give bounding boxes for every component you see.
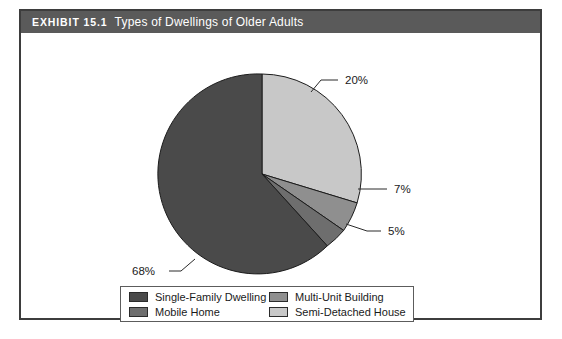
pie-label-single-family-pct: 68% bbox=[132, 265, 155, 277]
leader-line-single-family bbox=[169, 259, 195, 271]
legend-label-multi-unit-building: Multi-Unit Building bbox=[295, 291, 384, 303]
legend-item-mobile-home[interactable]: Mobile Home bbox=[129, 306, 269, 318]
legend-item-multi-unit-building[interactable]: Multi-Unit Building bbox=[269, 291, 423, 303]
chart-legend: Single-Family Dwelling Multi-Unit Buildi… bbox=[120, 286, 414, 322]
leader-line-mobile-home bbox=[346, 224, 381, 231]
exhibit-number: EXHIBIT 15.1 bbox=[32, 16, 108, 28]
legend-swatch-icon-multi-unit bbox=[269, 292, 288, 302]
exhibit-frame: EXHIBIT 15.1 Types of Dwellings of Older… bbox=[19, 9, 542, 320]
pie-label-mobile-home-pct: 5% bbox=[388, 225, 405, 237]
legend-item-single-family-dwelling[interactable]: Single-Family Dwelling bbox=[129, 291, 269, 303]
legend-label-mobile-home: Mobile Home bbox=[155, 306, 220, 318]
pie-chart-svg: 20% 7% 5% 68% bbox=[21, 33, 540, 318]
legend-label-semi-detached-house: Semi-Detached House bbox=[295, 306, 406, 318]
legend-item-semi-detached-house[interactable]: Semi-Detached House bbox=[269, 306, 423, 318]
legend-label-single-family-dwelling: Single-Family Dwelling bbox=[155, 291, 266, 303]
exhibit-title: Types of Dwellings of Older Adults bbox=[115, 15, 304, 29]
legend-swatch-icon-single-family bbox=[129, 292, 148, 302]
pie-chart: 20% 7% 5% 68% bbox=[21, 33, 540, 318]
legend-swatch-icon-mobile-home bbox=[129, 307, 148, 317]
pie-label-semi-detached-pct: 20% bbox=[345, 74, 368, 86]
exhibit-title-bar: EXHIBIT 15.1 Types of Dwellings of Older… bbox=[21, 11, 540, 33]
chart-plot-area: 20% 7% 5% 68% Single-Family Dwelling Mul… bbox=[21, 33, 540, 318]
legend-swatch-icon-semi-detached bbox=[269, 307, 288, 317]
pie-label-multi-unit-pct: 7% bbox=[394, 183, 411, 195]
